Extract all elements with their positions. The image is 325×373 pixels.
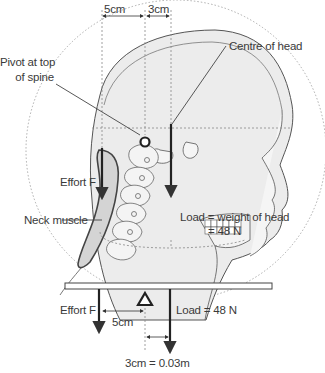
load-label-line1: Load = weight of head (180, 211, 289, 224)
effort-label-head: Effort F (60, 176, 96, 189)
dim-3cm-bottom-label: 3cm = 0.03m (125, 357, 190, 370)
dim-3cm-top-label: 3cm (148, 3, 169, 16)
load-label-beam: Load = 48 N (176, 304, 237, 317)
pivot-label-line2: of spine (0, 71, 54, 84)
effort-label-beam: Effort F (60, 304, 96, 317)
pivot-point-icon (141, 138, 150, 147)
lever-beam (65, 283, 272, 289)
pivot-label-line1: Pivot at top (0, 56, 52, 69)
load-label-line2: = 48 N (208, 225, 241, 238)
dim-5cm-bottom-label: 5cm (112, 316, 133, 329)
head-silhouette (60, 30, 293, 320)
dim-5cm-top-label: 5cm (104, 3, 125, 16)
neck-muscle-label: Neck muscle (24, 214, 88, 227)
centre-of-head-label: Centre of head (229, 40, 302, 53)
